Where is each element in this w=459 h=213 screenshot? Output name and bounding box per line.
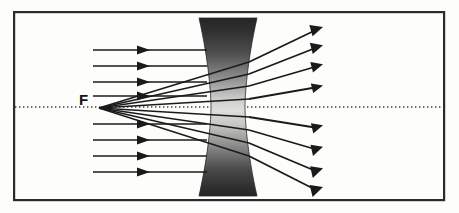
ray-diagram-canvas [0, 0, 459, 213]
figure-root: F [0, 0, 459, 213]
focal-point-label: F [79, 92, 88, 107]
